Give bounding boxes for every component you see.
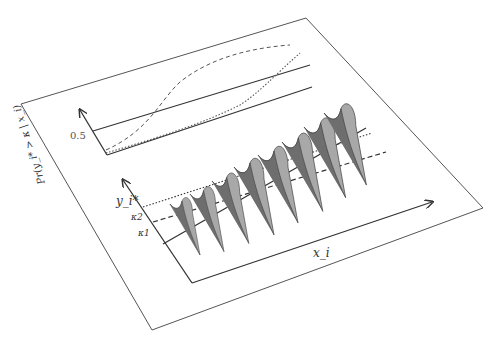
bottom-panel: y_i* κ2 κ1 x_i [115,104,432,283]
kappa2-label: κ2 [130,212,143,222]
bottom-y-axis-label: y_i* [115,194,139,208]
diagram-canvas: 0.5 Pr(y_i* > κ | x_i) [0,0,497,346]
top-dashed-curve [106,45,290,150]
kappa1-label: κ1 [137,228,150,238]
top-y-axis-label: Pr(y_i* > κ | x_i) [11,103,48,187]
top-dotted-curve [106,53,300,153]
top-x-axis [107,87,312,155]
density-curves [170,104,366,255]
bottom-x-axis-label: x_i [313,246,330,260]
top-tick-label: 0.5 [70,130,86,141]
